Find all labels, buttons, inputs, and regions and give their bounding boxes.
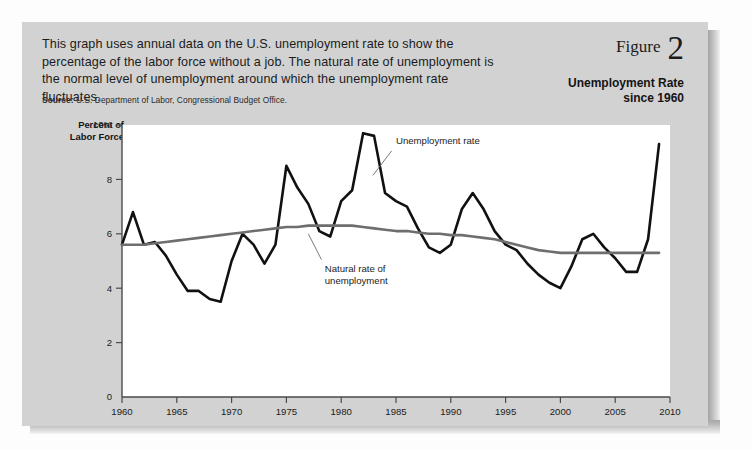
card-shadow-right (706, 30, 720, 432)
x-tick-label: 2005 (605, 406, 626, 417)
x-tick-label: 1960 (111, 406, 132, 417)
annotation-leader-natural (308, 234, 321, 260)
y-tick-label: 0 (107, 391, 112, 402)
annotation-leader-unemployment (373, 151, 392, 175)
x-tick-label: 1980 (331, 406, 352, 417)
y-tick-label: 10% (93, 119, 113, 130)
x-tick-label: 1990 (440, 406, 461, 417)
y-tick-label: 2 (107, 337, 112, 348)
y-tick-label: 6 (107, 228, 112, 239)
x-tick-label: 1995 (495, 406, 516, 417)
y-tick-label: 4 (107, 283, 113, 294)
x-tick-label: 1985 (385, 406, 406, 417)
unemployment-chart: 0246810%19601965197019751980198519901995… (22, 22, 708, 426)
figure-card: This graph uses annual data on the U.S. … (22, 22, 708, 426)
x-tick-label: 1970 (221, 406, 242, 417)
x-tick-label: 1975 (276, 406, 297, 417)
annotation-unemployment-rate: Unemployment rate (396, 135, 480, 146)
annotation-natural-rate: Natural rate ofunemployment (325, 263, 388, 286)
y-tick-label: 8 (107, 174, 112, 185)
unemployment-rate-line (122, 133, 659, 302)
page-root: This graph uses annual data on the U.S. … (0, 0, 752, 450)
x-tick-label: 1965 (166, 406, 187, 417)
x-tick-label: 2000 (550, 406, 571, 417)
x-tick-label: 2010 (659, 406, 680, 417)
